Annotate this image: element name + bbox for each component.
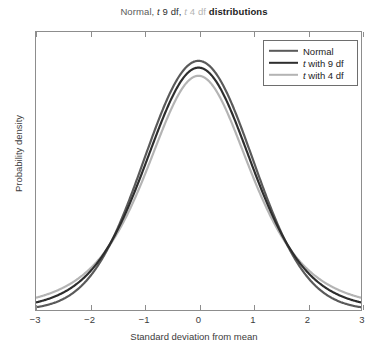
x-tick-label: 1 bbox=[250, 314, 255, 325]
x-tick-bottom bbox=[254, 305, 255, 310]
curve-t-with-4-df bbox=[36, 76, 361, 298]
x-axis-label: Standard deviation from mean bbox=[0, 331, 388, 342]
curve-t-with-9-df bbox=[36, 68, 361, 303]
legend-label-normal: Normal bbox=[299, 46, 334, 57]
y-axis-label: Probability density bbox=[13, 74, 24, 234]
x-tick-bottom bbox=[36, 305, 37, 310]
curve-normal bbox=[36, 61, 361, 307]
x-tick-bottom bbox=[200, 305, 201, 310]
curve-group bbox=[36, 61, 361, 307]
chart-figure: Normal, t 9 df, t 4 df distributions −3−… bbox=[0, 0, 388, 359]
x-tick-bottom bbox=[91, 305, 92, 310]
title-segment-normal: Normal, bbox=[120, 6, 157, 17]
x-tick-bottom bbox=[145, 305, 146, 310]
legend-item-normal: Normal bbox=[268, 45, 352, 57]
legend-label-t4: t with 4 df bbox=[299, 70, 344, 81]
x-tick-bottom bbox=[309, 305, 310, 310]
legend-item-t4: t with 4 df bbox=[268, 69, 352, 81]
title-segment-t9: t 9 df, bbox=[157, 6, 184, 17]
title-segment-distributions: distributions bbox=[209, 6, 268, 17]
legend-swatch-t4 bbox=[268, 69, 299, 81]
x-tick-top bbox=[145, 32, 146, 37]
x-tick-top bbox=[254, 32, 255, 37]
x-tick-top bbox=[200, 32, 201, 37]
x-tick-top bbox=[363, 32, 364, 37]
legend-swatch-normal bbox=[268, 45, 299, 57]
x-tick-top bbox=[309, 32, 310, 37]
x-tick-top bbox=[91, 32, 92, 37]
legend: Normal t with 9 df t with 4 df bbox=[263, 40, 358, 86]
x-tick-label: 0 bbox=[196, 314, 201, 325]
x-tick-bottom bbox=[363, 305, 364, 310]
chart-title: Normal, t 9 df, t 4 df distributions bbox=[0, 6, 388, 17]
x-tick-label: −2 bbox=[84, 314, 95, 325]
x-tick-label: −3 bbox=[30, 314, 41, 325]
legend-swatch-t9 bbox=[268, 57, 299, 69]
x-tick-label: 2 bbox=[305, 314, 310, 325]
x-tick-top bbox=[36, 32, 37, 37]
x-tick-label: −1 bbox=[139, 314, 150, 325]
legend-item-t9: t with 9 df bbox=[268, 57, 352, 69]
x-tick-label: 3 bbox=[359, 314, 364, 325]
title-segment-t4: t 4 df bbox=[184, 6, 208, 17]
legend-label-t9: t with 9 df bbox=[299, 58, 344, 69]
